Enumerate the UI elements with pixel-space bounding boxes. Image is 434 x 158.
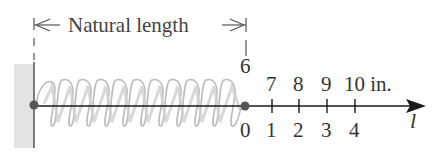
top-label-10-in: 10 in. [344,72,392,96]
top-label-8: 8 [293,72,304,96]
bottom-label-0: 0 [240,118,251,142]
diagram-canvas: Natural length 6 7 8 9 10 in. 0 1 2 3 4 … [0,0,434,158]
spring-diagram: Natural length 6 7 8 9 10 in. 0 1 2 3 4 … [0,0,434,158]
bottom-label-4: 4 [349,118,360,142]
bottom-label-3: 3 [321,118,332,142]
bottom-label-1: 1 [266,118,277,142]
axis-variable-label: l [410,108,416,133]
bottom-label-2: 2 [293,118,304,142]
natural-length-label: Natural length [68,13,189,37]
spring-fixed-point [30,101,39,110]
spring-end-point [241,102,250,111]
top-label-7: 7 [266,72,277,96]
natural-mark-label: 6 [240,54,251,78]
top-label-9: 9 [321,72,332,96]
